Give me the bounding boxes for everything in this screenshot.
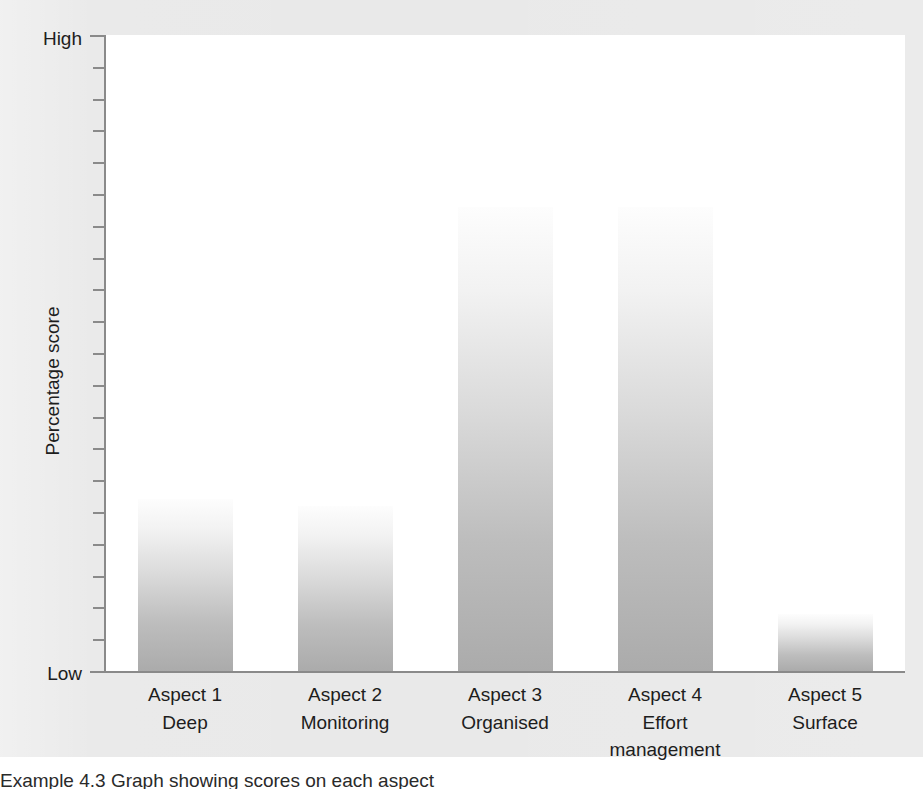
y-axis-tick [93,194,104,196]
y-axis-tick [93,99,104,101]
x-axis-label-secondary: Effort management [605,709,725,764]
y-axis-title: Percentage score [42,291,64,471]
x-axis-label-5: Aspect 5Surface [730,681,920,736]
y-axis-tick [93,130,104,132]
y-axis-max-label: High [2,29,82,48]
y-axis-tick [93,417,104,419]
y-axis-tick [93,576,104,578]
bar-2 [298,506,393,671]
x-axis-label-secondary: Surface [730,709,920,737]
y-axis-tick [93,639,104,641]
bar-5 [778,614,873,671]
y-axis-tick [93,258,104,260]
figure-container: High Low Percentage score Aspect 1DeepAs… [0,0,923,789]
figure-caption: Example 4.3 Graph showing scores on each… [0,770,923,789]
y-axis-tick [93,544,104,546]
y-axis-major-tick [90,35,104,37]
x-axis-label-primary: Aspect 3 [468,684,542,705]
x-axis-label-primary: Aspect 4 [628,684,702,705]
y-axis-line [104,35,106,673]
y-axis-tick [93,512,104,514]
bar-1 [138,499,233,671]
y-axis-tick [93,67,104,69]
y-axis-tick [93,321,104,323]
y-axis-tick [93,289,104,291]
y-axis-tick [93,448,104,450]
y-axis-min-label: Low [2,664,82,683]
x-axis-label-primary: Aspect 1 [148,684,222,705]
y-axis-tick [93,480,104,482]
y-axis-tick [93,385,104,387]
y-axis-major-tick [90,671,104,673]
bar-4 [618,207,713,671]
y-axis-tick [93,607,104,609]
x-axis-line [104,671,905,673]
x-axis-label-primary: Aspect 2 [308,684,382,705]
chart-card: High Low Percentage score Aspect 1DeepAs… [0,0,923,757]
y-axis-tick [93,162,104,164]
x-axis-label-primary: Aspect 5 [788,684,862,705]
y-axis-tick [93,353,104,355]
y-axis-tick [93,226,104,228]
bar-3 [458,207,553,671]
